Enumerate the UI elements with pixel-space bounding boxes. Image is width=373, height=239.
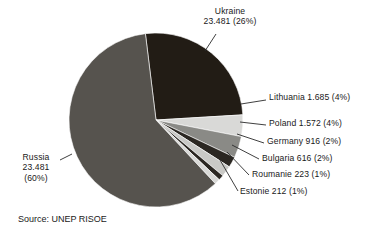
slice-label-lithuania: Lithuania 1.685 (4%) (269, 92, 350, 102)
slice-label-ukraine-value: 23.481 (26%) (172, 16, 288, 26)
leader-line-poland (240, 122, 266, 125)
source-note: Source: UNEP RISOE (18, 214, 107, 224)
slice-label-estonie: Estonie 212 (1%) (240, 186, 308, 196)
pie-slice-ukraine (145, 33, 242, 120)
slice-label-russia-percent: (60%) (8, 173, 64, 183)
pie-chart-figure: Ukraine 23.481 (26%) Lithuania 1.685 (4%… (0, 0, 373, 239)
slice-label-russia: Russia 23.481 (60%) (8, 152, 64, 183)
leader-line-lithuania (241, 100, 266, 104)
slice-label-germany: Germany 916 (2%) (267, 136, 341, 146)
slice-label-ukraine: Ukraine 23.481 (26%) (172, 6, 288, 27)
slice-label-roumanie: Roumanie 223 (1%) (252, 169, 330, 179)
slice-label-russia-value: 23.481 (8, 162, 64, 172)
pie-slices-group (69, 33, 243, 207)
slice-label-poland: Poland 1.572 (4%) (269, 118, 342, 128)
slice-label-ukraine-name: Ukraine (172, 6, 288, 16)
slice-label-russia-name: Russia (8, 152, 64, 162)
slice-label-bulgaria: Bulgaria 616 (2%) (262, 153, 333, 163)
leader-line-ukraine (205, 34, 216, 51)
